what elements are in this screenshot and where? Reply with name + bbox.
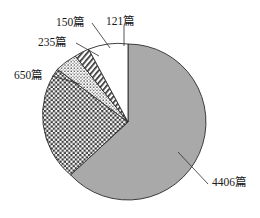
slice-label-121: 121篇 <box>106 14 134 27</box>
slice-label-235: 235篇 <box>38 35 66 48</box>
pie-chart-figure: 4406篇 650篇 235篇 150篇 121篇 <box>0 0 260 218</box>
slice-label-150: 150篇 <box>56 15 84 28</box>
slice-label-650: 650篇 <box>14 68 42 81</box>
slice-label-4406: 4406篇 <box>212 175 246 188</box>
pie-slices <box>43 43 206 200</box>
